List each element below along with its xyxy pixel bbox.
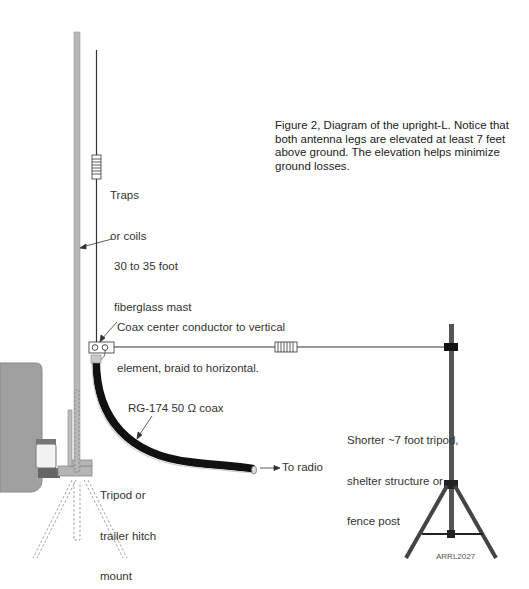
coax-label: RG-174 50 Ω coax	[128, 402, 224, 416]
vehicle-body	[0, 363, 42, 492]
fiberglass-mast	[74, 32, 80, 472]
mast-label-line1: 30 to 35 foot	[114, 260, 191, 274]
mount-label: Tripod or trailer hitch mount	[100, 462, 156, 589]
feedpoint-label-line2: element, braid to horizontal.	[117, 362, 285, 376]
to-radio-label: To radio	[282, 461, 323, 475]
support-label-line3: fence post	[347, 515, 459, 529]
mount-label-line3: mount	[100, 570, 156, 584]
vertical-wire-element	[92, 50, 101, 345]
figure-caption: Figure 2, Diagram of the upright-L. Noti…	[275, 119, 515, 173]
support-label-line2: shelter structure or	[347, 475, 459, 489]
traps-label-line1: Traps	[110, 189, 146, 203]
hitch-receiver	[36, 410, 92, 478]
mount-label-line1: Tripod or	[100, 489, 156, 503]
feedpoint-label: Coax center conductor to vertical elemen…	[117, 294, 285, 389]
figure-credit: ARRL2027	[436, 552, 475, 561]
feedpoint-label-line1: Coax center conductor to vertical	[117, 321, 285, 335]
mount-label-line2: trailer hitch	[100, 530, 156, 544]
support-label: Shorter ~7 foot tripod, shelter structur…	[347, 407, 459, 542]
support-label-line1: Shorter ~7 foot tripod,	[347, 434, 459, 448]
